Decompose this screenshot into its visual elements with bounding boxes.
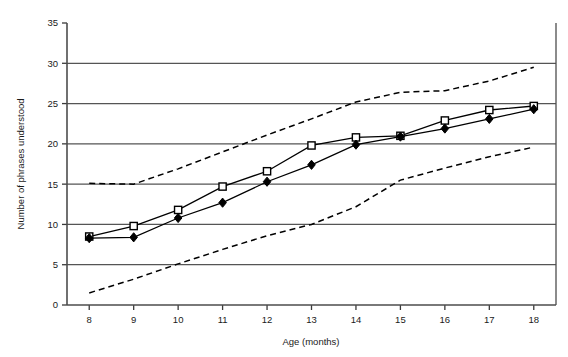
x-tick-label: 18 — [528, 314, 539, 325]
open-square-marker — [130, 222, 137, 229]
x-tick-label: 15 — [395, 314, 406, 325]
y-tick-label: 0 — [53, 299, 58, 310]
open-square-marker — [263, 168, 270, 175]
open-square-marker — [308, 142, 315, 149]
chart-background — [0, 0, 568, 357]
open-square-marker — [486, 106, 493, 113]
y-tick-label: 25 — [47, 98, 58, 109]
y-axis-title: Number of phrases understood — [15, 99, 26, 230]
x-tick-label: 10 — [173, 314, 184, 325]
y-tick-label: 10 — [47, 219, 58, 230]
x-tick-label: 12 — [262, 314, 273, 325]
open-square-marker — [175, 206, 182, 213]
y-tick-label: 30 — [47, 58, 58, 69]
x-tick-label: 13 — [306, 314, 317, 325]
x-tick-label: 9 — [131, 314, 136, 325]
chart-container: 05101520253035 89101112131415161718 Age … — [0, 0, 568, 357]
y-tick-label: 35 — [47, 17, 58, 28]
x-tick-label: 16 — [440, 314, 451, 325]
y-tick-label: 20 — [47, 138, 58, 149]
x-tick-label: 14 — [351, 314, 362, 325]
x-tick-label: 11 — [218, 314, 228, 325]
x-tick-label: 17 — [484, 314, 495, 325]
x-axis-title: Age (months) — [282, 336, 339, 347]
open-square-marker — [441, 117, 448, 124]
y-tick-label: 15 — [47, 179, 58, 190]
open-square-marker — [219, 183, 226, 190]
phrases-understood-line-chart: 05101520253035 89101112131415161718 Age … — [0, 0, 568, 357]
y-tick-label: 5 — [53, 259, 58, 270]
x-tick-label: 8 — [87, 314, 92, 325]
